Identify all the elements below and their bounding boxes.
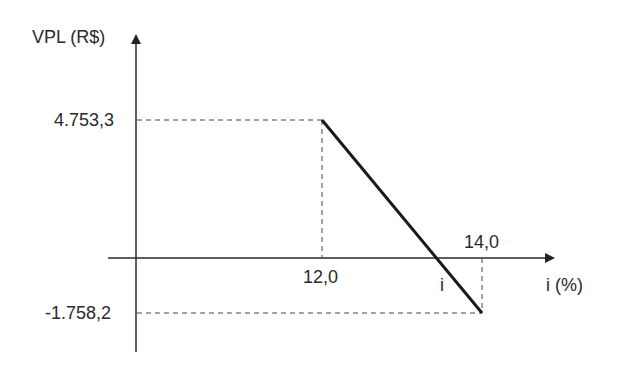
root-label: i <box>440 276 444 294</box>
y-tick-bottom: -1.758,2 <box>45 304 111 322</box>
x-tick-left: 12,0 <box>303 268 338 286</box>
npv-line <box>322 120 482 313</box>
y-axis-label: VPL (R$) <box>32 28 105 46</box>
y-tick-top: 4.753,3 <box>54 111 114 129</box>
x-tick-right: 14,0 <box>464 233 499 251</box>
x-axis-label: i (%) <box>546 276 583 294</box>
